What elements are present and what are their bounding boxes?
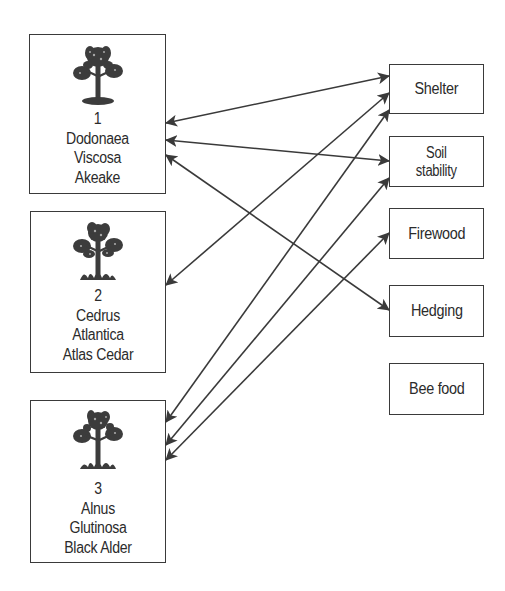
tree-species: Atlantica: [39, 325, 157, 345]
use-box-firewood: Firewood: [389, 208, 484, 259]
connection-arrow: [166, 233, 389, 460]
tree-genus: Dodonaea: [38, 129, 157, 149]
connection-arrow: [166, 93, 389, 285]
tree-common-name: Akeake: [38, 168, 157, 188]
connection-arrow: [166, 178, 389, 445]
use-label: Shelter: [415, 80, 459, 98]
tree-icon: [70, 43, 126, 107]
tree-label-1: 1 Dodonaea Viscosa Akeake: [38, 109, 157, 187]
tree-common-name: Black Alder: [39, 538, 157, 558]
use-box-shelter: Shelter: [389, 64, 484, 114]
tree-number: 2: [39, 286, 157, 306]
tree-common-name: Atlas Cedar: [39, 345, 157, 365]
tree-icon: [70, 409, 126, 473]
connection-arrow: [166, 76, 389, 123]
tree-box-3: 3 Alnus Glutinosa Black Alder: [30, 400, 166, 563]
use-box-hedging: Hedging: [389, 285, 484, 337]
tree-species: Viscosa: [38, 148, 157, 168]
tree-genus: Cedrus: [39, 306, 157, 326]
tree-label-3: 3 Alnus Glutinosa Black Alder: [39, 479, 157, 557]
use-label: Hedging: [411, 302, 463, 320]
use-box-bee-food: Bee food: [389, 363, 484, 415]
use-label: Bee food: [409, 380, 464, 398]
use-label: Firewood: [408, 225, 465, 243]
tree-number: 3: [39, 479, 157, 499]
use-label: Soil stability: [414, 144, 460, 180]
tree-label-2: 2 Cedrus Atlantica Atlas Cedar: [39, 286, 157, 364]
tree-icon: [70, 220, 126, 284]
tree-box-2: 2 Cedrus Atlantica Atlas Cedar: [30, 211, 166, 373]
connection-arrow: [166, 110, 389, 422]
connection-arrow: [166, 155, 389, 310]
use-label-line: Soil: [416, 144, 457, 162]
use-box-soil-stability: Soil stability: [389, 136, 484, 187]
tree-species: Glutinosa: [39, 518, 157, 538]
tree-box-1: 1 Dodonaea Viscosa Akeake: [29, 34, 166, 194]
use-label-line: stability: [416, 162, 457, 180]
connection-arrow: [166, 140, 389, 161]
tree-number: 1: [38, 109, 157, 129]
tree-genus: Alnus: [39, 499, 157, 519]
